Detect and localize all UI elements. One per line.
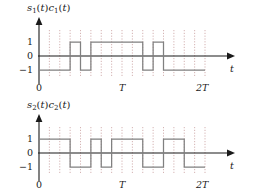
x-axis-arrowhead: [227, 150, 235, 157]
x-axis-arrowhead: [227, 53, 235, 60]
y-axis-label-neg1: −1: [13, 161, 33, 172]
x-axis-tick-0: 0: [36, 179, 42, 190]
y-axis-arrowhead: [36, 114, 43, 122]
chart-panel-bottom: s2(t)c2(t) 1 0 −1 0 T 2T t: [0, 97, 253, 193]
gridlines-group: [49, 127, 205, 173]
y-axis-label-pos1: 1: [17, 36, 33, 47]
x-axis-tick-0: 0: [36, 82, 42, 93]
gridlines-group: [49, 30, 205, 76]
x-axis-tick-2T: 2T: [196, 179, 208, 190]
figure-container: s1(t)c1(t) 1 0 −1 0 T 2T t s2(t)c2(t) 1 …: [0, 0, 253, 193]
x-axis-tick-2T: 2T: [196, 82, 208, 93]
chart-panel-top: s1(t)c1(t) 1 0 −1 0 T 2T t: [0, 0, 253, 96]
x-axis-name-bottom: t: [230, 160, 234, 171]
x-axis-tick-T: T: [119, 179, 125, 190]
x-axis-name-top: t: [230, 63, 234, 74]
y-axis-label-neg1: −1: [13, 64, 33, 75]
y-axis-arrowhead: [36, 17, 43, 25]
x-axis-tick-T: T: [119, 82, 125, 93]
y-axis-label-zero: 0: [17, 147, 33, 158]
y-axis-label-pos1: 1: [17, 133, 33, 144]
y-axis-label-zero: 0: [17, 50, 33, 61]
